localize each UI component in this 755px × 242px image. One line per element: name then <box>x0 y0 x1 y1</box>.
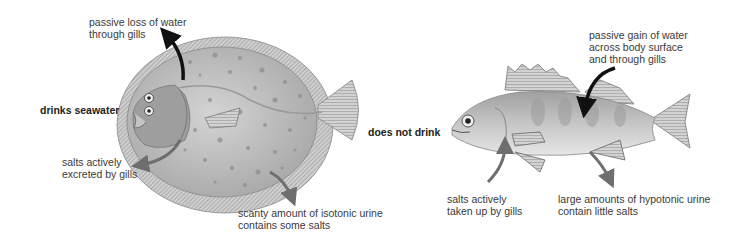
water-gain-label: passive gain of water across body surfac… <box>589 29 688 65</box>
does-not-drink-label: does not drink <box>368 126 440 138</box>
drinks-seawater-label: drinks seawater <box>40 104 119 116</box>
urine-label-right: large amounts of hypotonic urine contain… <box>558 193 710 217</box>
salt-uptake-label: salts actively taken up by gills <box>447 193 522 217</box>
water-loss-label: passive loss of water through gills <box>89 16 186 40</box>
flounder-illustration <box>117 37 359 213</box>
perch-illustration <box>452 64 690 172</box>
urine-label-left: scanty amount of isotonic urine contains… <box>238 207 383 231</box>
salt-excretion-label: salts actively excreted by gills <box>62 156 137 180</box>
